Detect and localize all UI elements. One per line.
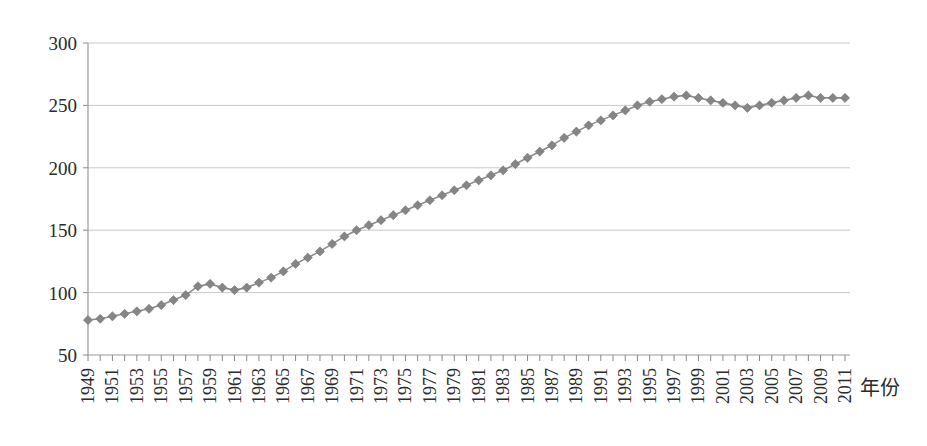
y-tick-label-250: 250: [49, 95, 78, 116]
data-point-1951: [108, 312, 117, 321]
data-point-1965: [279, 267, 288, 276]
data-point-2006: [779, 96, 788, 105]
data-point-2000: [706, 96, 715, 105]
data-point-1967: [303, 253, 312, 262]
x-tick-label-1985: 1985: [518, 368, 538, 404]
x-tick-label-1965: 1965: [273, 368, 293, 404]
y-tick-label-50: 50: [58, 345, 77, 366]
y-tick-label-200: 200: [49, 158, 78, 179]
x-tick-label-1977: 1977: [420, 368, 440, 404]
data-point-1952: [120, 309, 129, 318]
data-point-1983: [499, 166, 508, 175]
x-tick-label-1989: 1989: [566, 368, 586, 404]
data-point-1963: [254, 278, 263, 287]
data-point-2009: [816, 93, 825, 102]
data-point-1986: [535, 147, 544, 156]
data-point-1977: [425, 196, 434, 205]
x-tick-label-1987: 1987: [542, 368, 562, 404]
x-tick-label-1949: 1949: [78, 368, 98, 404]
axis-lines-group: [88, 43, 850, 355]
data-point-1981: [474, 176, 483, 185]
data-point-markers-group: [83, 91, 849, 325]
data-point-1973: [376, 216, 385, 225]
data-point-2004: [755, 101, 764, 110]
data-point-1962: [242, 283, 251, 292]
data-point-2008: [804, 91, 813, 100]
x-tick-label-2001: 2001: [713, 368, 733, 404]
x-tick-label-2005: 2005: [762, 368, 782, 404]
x-tick-label-1981: 1981: [469, 368, 489, 404]
x-axis-labels-group: 1949195119531955195719591961196319651967…: [78, 368, 855, 404]
data-point-1989: [572, 127, 581, 136]
data-point-2010: [828, 93, 837, 102]
x-tick-label-1973: 1973: [371, 368, 391, 404]
gridlines-group: [88, 43, 850, 293]
x-tick-label-1999: 1999: [688, 368, 708, 404]
x-tick-label-1993: 1993: [615, 368, 635, 404]
data-point-1968: [315, 247, 324, 256]
data-point-1960: [218, 283, 227, 292]
data-point-1950: [96, 314, 105, 323]
data-point-1997: [669, 92, 678, 101]
data-point-1974: [389, 211, 398, 220]
x-tick-label-1995: 1995: [640, 368, 660, 404]
data-point-1970: [340, 232, 349, 241]
x-tick-label-2011: 2011: [835, 368, 855, 403]
data-point-1984: [511, 159, 520, 168]
x-axis-title: 年份: [860, 377, 900, 399]
data-point-1969: [328, 239, 337, 248]
data-point-2007: [792, 93, 801, 102]
data-point-1996: [657, 95, 666, 104]
data-point-1991: [596, 116, 605, 125]
data-point-1972: [364, 221, 373, 230]
data-point-1975: [401, 206, 410, 215]
data-point-1987: [547, 141, 556, 150]
x-axis-tick-group: [88, 355, 845, 361]
data-point-1955: [157, 300, 166, 309]
data-point-1954: [144, 304, 153, 313]
data-point-2001: [718, 98, 727, 107]
data-point-1999: [694, 93, 703, 102]
data-point-1949: [83, 315, 92, 324]
data-point-1961: [230, 286, 239, 295]
data-point-1971: [352, 226, 361, 235]
x-tick-label-1983: 1983: [493, 368, 513, 404]
x-tick-label-1957: 1957: [176, 368, 196, 404]
x-tick-label-1961: 1961: [225, 368, 245, 404]
data-point-1998: [682, 91, 691, 100]
x-tick-label-1991: 1991: [591, 368, 611, 404]
data-point-1953: [132, 307, 141, 316]
x-tick-label-1953: 1953: [127, 368, 147, 404]
data-point-2002: [731, 101, 740, 110]
x-tick-label-1955: 1955: [151, 368, 171, 404]
x-tick-label-2009: 2009: [811, 368, 831, 404]
data-point-2011: [840, 93, 849, 102]
x-tick-label-1971: 1971: [347, 368, 367, 404]
x-tick-label-1979: 1979: [444, 368, 464, 404]
x-tick-label-2007: 2007: [786, 368, 806, 404]
data-point-1990: [584, 121, 593, 130]
data-point-1956: [169, 295, 178, 304]
x-tick-label-1975: 1975: [395, 368, 415, 404]
data-point-1985: [523, 153, 532, 162]
data-point-1980: [462, 181, 471, 190]
x-tick-label-1997: 1997: [664, 368, 684, 404]
data-point-1993: [621, 106, 630, 115]
y-tick-label-100: 100: [49, 283, 78, 304]
x-tick-label-1963: 1963: [249, 368, 269, 404]
data-point-1979: [450, 186, 459, 195]
x-tick-label-1959: 1959: [200, 368, 220, 404]
data-point-1992: [608, 111, 617, 120]
data-point-1976: [413, 201, 422, 210]
x-tick-label-2003: 2003: [737, 368, 757, 404]
x-tick-label-1951: 1951: [102, 368, 122, 404]
data-point-1994: [633, 101, 642, 110]
y-tick-label-150: 150: [49, 220, 78, 241]
x-tick-label-1969: 1969: [322, 368, 342, 404]
data-point-1959: [206, 279, 215, 288]
data-point-1978: [437, 191, 446, 200]
data-point-1988: [560, 133, 569, 142]
data-point-1964: [267, 273, 276, 282]
data-point-2003: [743, 103, 752, 112]
data-point-1995: [645, 97, 654, 106]
